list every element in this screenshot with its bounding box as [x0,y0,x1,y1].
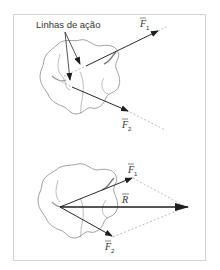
f2-label-top: F 2 [121,119,132,132]
bottom-panel: F 1 R F 2 [38,164,188,254]
f1-label-top: F 1 [139,18,150,31]
f1-label-bottom: F 1 [127,164,138,177]
force-f2-arrow [72,87,128,111]
svg-text:1: 1 [146,25,150,31]
svg-text:R: R [121,194,128,205]
f2-label-bottom: F 2 [104,241,115,254]
lines-of-action-label: Linhas de ação [36,19,100,30]
r-label: R [121,194,129,205]
svg-text:2: 2 [128,126,132,132]
pointer-line-1 [65,32,80,64]
svg-text:1: 1 [134,171,138,177]
svg-text:2: 2 [111,248,115,254]
pointer-line-2 [65,32,70,80]
force-diagram: Linhas de ação F 1 F 2 F 1 [0,0,220,270]
top-panel: Linhas de ação F 1 F 2 [36,18,168,132]
force-f1-arrow [86,31,158,66]
